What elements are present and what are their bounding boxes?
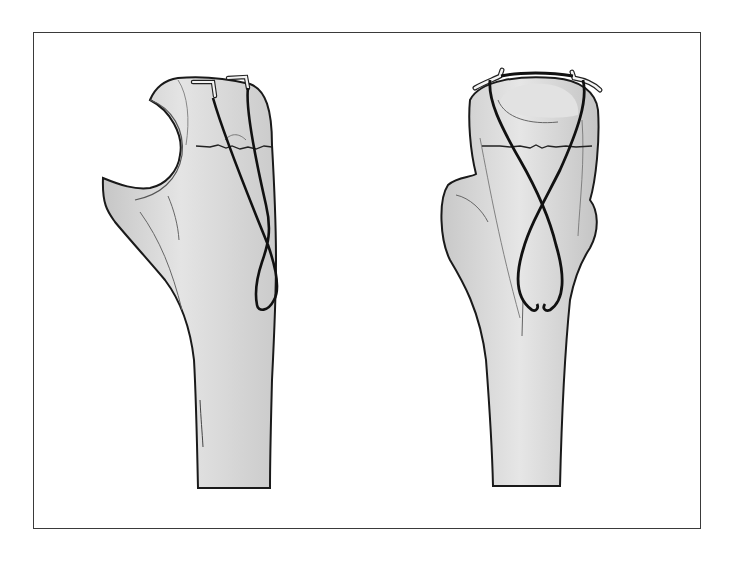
- left-bone-outline: [103, 77, 276, 488]
- right-bone-ap-view: [441, 70, 600, 486]
- right-bone-outline: [441, 77, 598, 486]
- tension-band-wiring-illustration: [0, 0, 732, 561]
- left-bone-lateral-view: [103, 77, 277, 488]
- tension-band-wire-top: [501, 73, 573, 76]
